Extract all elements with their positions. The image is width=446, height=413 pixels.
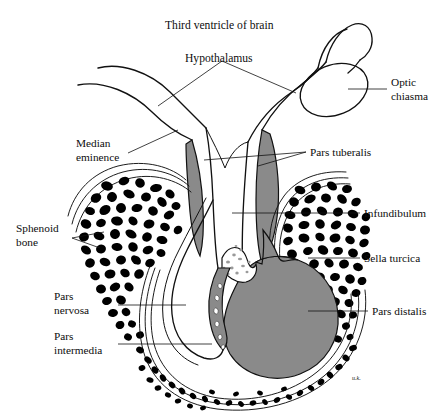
label-pars-distalis: Pars distalis (372, 305, 426, 317)
label-median-eminence-line1: Median (76, 137, 111, 149)
anatomy-figure: u.k. Third ventricle of brain Hypothalam… (0, 0, 446, 413)
label-pars-nervosa-line2: nervosa (54, 304, 89, 316)
label-pars-intermedia-line1: Pars (54, 330, 73, 342)
brain-outline-group (78, 62, 326, 142)
bone-stipple-left (78, 175, 184, 342)
label-sphenoid-bone-line2: bone (16, 236, 38, 248)
label-sphenoid-bone-line1: Sphenoid (16, 222, 59, 234)
label-third-ventricle: Third ventricle of brain (165, 19, 274, 32)
label-optic-chiasma-line1: Optic (391, 76, 416, 88)
label-median-eminence-line2: eminence (76, 151, 119, 163)
label-optic-chiasma-line2: chiasma (391, 90, 428, 102)
label-infundibulum: Infundibulum (364, 207, 426, 219)
label-sella-turcica: Sella turcica (364, 252, 420, 264)
label-pars-tuberalis: Pars tuberalis (310, 146, 371, 158)
optic-chiasma-group (292, 24, 376, 127)
artist-signature: u.k. (352, 375, 361, 381)
label-pars-nervosa-line1: Pars (54, 290, 73, 302)
label-hypothalamus: Hypothalamus (185, 52, 253, 65)
label-pars-intermedia-line2: intermedia (54, 344, 102, 356)
